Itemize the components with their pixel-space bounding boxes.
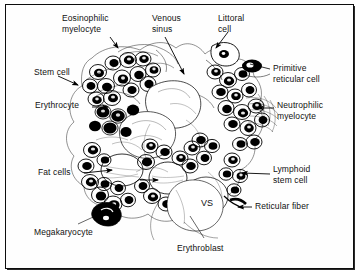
label-erythroblast: Erythroblast	[177, 243, 224, 254]
label-littoral-cell: Littoral cell	[218, 13, 244, 34]
label-eosinophilic-myelocyte: Eosinophilic myelocyte	[62, 13, 109, 34]
leader-lymphoid-stem-cell	[242, 173, 270, 174]
bone-marrow-figure: Eosinophilic myelocyte Venous sinus Litt…	[0, 0, 360, 275]
label-primitive-reticular-cell: Primitive reticular cell	[273, 63, 320, 84]
label-megakaryocyte: Megakaryocyte	[34, 227, 93, 238]
label-erythrocyte: Erythrocyte	[35, 100, 79, 111]
megakaryocyte-body	[92, 203, 122, 226]
label-fat-cells: Fat cells	[38, 167, 71, 178]
label-neutrophilic-myelocyte: Neutrophilic myelocyte	[277, 100, 323, 121]
label-venous-sinus: Venous sinus	[152, 13, 181, 34]
label-reticular-fiber: Reticular fiber	[255, 201, 309, 212]
label-vs-abbreviation: VS	[201, 198, 213, 208]
leader-venous-sinus	[165, 37, 184, 74]
leader-eosinophilic-myelocyte	[110, 37, 118, 48]
upper-right-cell-cluster	[207, 60, 279, 151]
marrow-tissue-mass	[67, 43, 280, 240]
label-lymphoid-stem-cell: Lymphoid stem cell	[273, 164, 310, 185]
label-stem-cell: Stem cell	[34, 67, 70, 78]
